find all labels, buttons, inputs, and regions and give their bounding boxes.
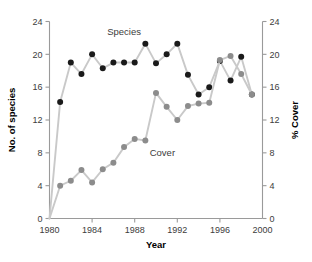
data-point-species: [132, 60, 138, 66]
right-axis-tick-label: 4: [270, 181, 275, 191]
data-point-species: [142, 41, 148, 47]
right-axis-tick-label: 12: [270, 115, 280, 125]
x-axis-tick-label: 1984: [82, 225, 102, 235]
right-axis-title: % Cover: [289, 101, 300, 139]
data-point-cover: [217, 57, 223, 63]
data-point-cover: [206, 100, 212, 106]
right-axis-tick-label: 24: [270, 17, 280, 27]
chart-container: 0481216202404812162024198019841988199219…: [0, 0, 312, 262]
data-point-cover: [238, 71, 244, 77]
right-axis-tick-label: 0: [270, 214, 275, 224]
data-point-species: [78, 71, 84, 77]
right-axis-tick-label: 8: [270, 148, 275, 158]
data-point-cover: [185, 103, 191, 109]
left-axis-tick-label: 20: [32, 50, 42, 60]
data-point-cover: [100, 166, 106, 172]
data-point-species: [100, 65, 106, 71]
data-point-species: [89, 51, 95, 57]
data-point-cover: [68, 178, 74, 184]
data-point-cover: [249, 92, 255, 98]
series-annotations: SpeciesCover: [107, 26, 175, 158]
left-axis-tick-label: 12: [32, 115, 42, 125]
x-axis-tick-label: 1988: [125, 225, 145, 235]
data-point-cover: [228, 53, 234, 59]
tick-marks: [46, 22, 267, 223]
data-point-cover: [153, 90, 159, 96]
data-point-cover: [110, 160, 116, 166]
data-point-cover: [121, 144, 127, 150]
left-axis-tick-label: 0: [37, 214, 42, 224]
data-point-cover: [89, 179, 95, 185]
series-annotation-cover: Cover: [150, 147, 175, 158]
series-annotation-species: Species: [107, 26, 141, 37]
axes: [50, 22, 263, 219]
data-point-species: [228, 78, 234, 84]
data-point-species: [68, 60, 74, 66]
data-point-species: [164, 51, 170, 57]
data-point-species: [121, 60, 127, 66]
left-axis-tick-label: 24: [32, 17, 42, 27]
data-point-cover: [142, 138, 148, 144]
x-axis-tick-label: 1992: [167, 225, 187, 235]
left-axis-tick-label: 16: [32, 82, 42, 92]
x-axis-title: Year: [146, 239, 166, 250]
data-series: [50, 41, 255, 219]
x-axis-tick-label: 1996: [210, 225, 230, 235]
left-axis-tick-label: 4: [37, 181, 42, 191]
data-point-cover: [57, 183, 63, 189]
right-axis-tick-label: 20: [270, 50, 280, 60]
x-axis-tick-label: 2000: [252, 225, 272, 235]
data-point-cover: [196, 101, 202, 107]
series-line-species: [50, 44, 252, 219]
data-point-species: [185, 72, 191, 78]
left-axis-title: No. of species: [6, 88, 17, 152]
data-point-cover: [78, 167, 84, 173]
line-chart: 0481216202404812162024198019841988199219…: [0, 0, 312, 262]
data-point-species: [110, 60, 116, 66]
data-point-species: [196, 92, 202, 98]
x-axis-tick-label: 1980: [39, 225, 59, 235]
tick-labels: 0481216202404812162024198019841988199219…: [32, 17, 279, 235]
data-point-species: [153, 60, 159, 66]
data-point-species: [238, 54, 244, 60]
data-point-cover: [164, 104, 170, 110]
data-point-species: [206, 84, 212, 90]
data-point-species: [174, 41, 180, 47]
left-axis-tick-label: 8: [37, 148, 42, 158]
data-point-cover: [132, 136, 138, 142]
right-axis-tick-label: 16: [270, 82, 280, 92]
series-line-cover: [50, 56, 252, 219]
data-point-species: [57, 99, 63, 105]
data-point-cover: [174, 117, 180, 123]
